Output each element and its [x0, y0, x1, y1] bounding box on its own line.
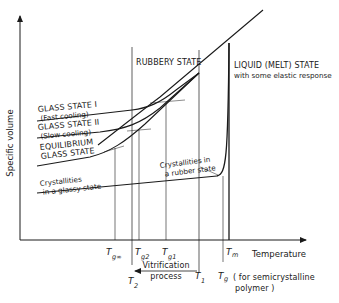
tick-tg: T g — [218, 271, 228, 283]
x-axis-label: Temperature — [251, 249, 306, 259]
svg-text:m: m — [232, 251, 238, 259]
tick-tg2: T g2 — [135, 247, 149, 261]
tick-tm: T m — [226, 247, 238, 259]
crystallities-rubber-curve — [217, 43, 229, 176]
rubbery-state-label: RUBBERY STATE — [136, 58, 201, 67]
svg-text:g: g — [224, 275, 228, 283]
tick-t2: T 2 — [128, 276, 138, 290]
svg-text:2: 2 — [134, 282, 138, 290]
tick-tg-inf: T g∞ — [106, 247, 122, 261]
svg-text:g1: g1 — [168, 253, 176, 261]
liquid-state-label: LIQUID (MELT) STATE — [234, 61, 319, 70]
vertical-lines — [115, 43, 229, 273]
y-axis-label: Specific volume — [5, 109, 15, 176]
tg-semicrystalline-note: ( for semicrystalline — [233, 273, 315, 282]
specific-volume-temperature-diagram: Specific volume Temperature RUBBERY STAT… — [0, 0, 339, 303]
svg-text:1: 1 — [201, 277, 205, 285]
vitrification-sublabel: process — [150, 272, 181, 281]
tick-t1: T 1 — [195, 271, 205, 285]
tick-tg1: T g1 — [162, 247, 176, 261]
liquid-state-sublabel: with some elastic response — [234, 71, 332, 80]
svg-text:g2: g2 — [141, 253, 149, 261]
svg-text:g∞: g∞ — [112, 253, 122, 261]
vitrification-label: Vitrification — [142, 261, 189, 270]
tg-semicrystalline-note-2: polymer ) — [235, 284, 275, 293]
